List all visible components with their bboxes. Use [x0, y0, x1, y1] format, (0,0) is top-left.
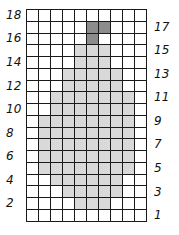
grid-cell	[50, 209, 62, 221]
grid-cell	[62, 80, 74, 92]
grid-cell	[98, 103, 110, 115]
grid-cell	[38, 33, 50, 45]
grid-cell	[74, 33, 86, 45]
grid-cell	[74, 162, 86, 174]
grid-cell	[122, 209, 134, 221]
grid-cell	[26, 115, 38, 127]
grid-cell	[86, 185, 98, 197]
grid-cell	[98, 33, 110, 45]
grid-cell	[38, 138, 50, 150]
grid-cell	[62, 9, 74, 21]
grid-cell	[74, 209, 86, 221]
grid-cell	[26, 197, 38, 209]
grid-cell	[62, 91, 74, 103]
grid-cell	[86, 33, 98, 45]
grid-cell	[86, 162, 98, 174]
grid-cell	[38, 115, 50, 127]
grid-cell	[110, 80, 122, 92]
grid-cell	[74, 103, 86, 115]
grid-cell	[74, 185, 86, 197]
grid-cell	[98, 162, 110, 174]
grid-cell	[74, 80, 86, 92]
grid-cell	[98, 209, 110, 221]
grid-cell	[98, 138, 110, 150]
grid-cell	[74, 21, 86, 33]
grid-cell	[26, 56, 38, 68]
left-row-label: 18	[6, 9, 22, 21]
grid-cell	[122, 127, 134, 139]
grid-cell	[74, 127, 86, 139]
right-row-label: 15	[154, 44, 174, 56]
grid-cell	[74, 44, 86, 56]
grid-cell	[110, 185, 122, 197]
grid-cell	[62, 138, 74, 150]
grid-cell	[50, 56, 62, 68]
grid-cell	[50, 185, 62, 197]
grid-cell	[86, 9, 98, 21]
grid-cell	[98, 115, 110, 127]
grid-cell	[38, 9, 50, 21]
grid-cell	[74, 197, 86, 209]
grid-cell	[26, 162, 38, 174]
grid-cell	[122, 91, 134, 103]
grid-cell	[122, 103, 134, 115]
grid-cell	[26, 68, 38, 80]
grid-cell	[86, 197, 98, 209]
grid-cell	[74, 115, 86, 127]
grid-cell	[86, 150, 98, 162]
grid-cell	[62, 162, 74, 174]
grid-cell	[134, 174, 146, 186]
grid-cell	[134, 150, 146, 162]
grid-cell	[38, 68, 50, 80]
grid-cell	[26, 103, 38, 115]
grid-cell	[50, 21, 62, 33]
grid-cell	[122, 44, 134, 56]
grid-cell	[134, 115, 146, 127]
grid-cell	[50, 127, 62, 139]
grid-cell	[86, 68, 98, 80]
grid-cell	[86, 56, 98, 68]
grid-cell	[50, 91, 62, 103]
left-row-label: 14	[6, 56, 22, 68]
grid-cell	[26, 127, 38, 139]
grid-cell	[38, 91, 50, 103]
grid-cell	[62, 185, 74, 197]
grid-cell	[50, 115, 62, 127]
grid-cell	[98, 150, 110, 162]
grid-cell	[26, 21, 38, 33]
grid-cell	[26, 174, 38, 186]
grid-cell	[122, 80, 134, 92]
grid-cell	[62, 150, 74, 162]
grid-cell	[110, 150, 122, 162]
grid-cell	[134, 103, 146, 115]
grid-cell	[62, 44, 74, 56]
grid-cell	[98, 185, 110, 197]
right-row-label: 17	[154, 21, 174, 33]
grid-cell	[38, 209, 50, 221]
grid-cell	[26, 44, 38, 56]
grid-cell	[50, 197, 62, 209]
grid-cell	[86, 138, 98, 150]
grid-cell	[74, 174, 86, 186]
grid-cell	[50, 44, 62, 56]
grid-cell	[122, 33, 134, 45]
right-row-label: 13	[154, 68, 174, 80]
grid-cell	[134, 209, 146, 221]
grid-cell	[74, 150, 86, 162]
grid-cell	[110, 9, 122, 21]
grid-cell	[26, 150, 38, 162]
grid-cell	[62, 197, 74, 209]
grid-cell	[62, 209, 74, 221]
grid-cell	[134, 127, 146, 139]
left-row-label: 12	[6, 80, 22, 92]
grid-cell	[38, 21, 50, 33]
grid-cell	[110, 56, 122, 68]
grid-cell	[74, 91, 86, 103]
grid-cell	[110, 21, 122, 33]
grid-cell	[26, 91, 38, 103]
grid-cell	[86, 103, 98, 115]
grid-cell	[122, 115, 134, 127]
grid-cell	[38, 103, 50, 115]
grid-cell	[26, 33, 38, 45]
right-row-label: 3	[154, 186, 174, 198]
